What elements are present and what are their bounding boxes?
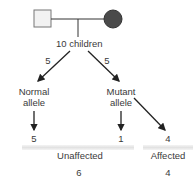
mother-circle-icon bbox=[104, 10, 122, 28]
mutant-affected-result: 4 bbox=[163, 133, 173, 144]
left-branch-count: 5 bbox=[43, 55, 53, 66]
normal-allele-label-1: Normal bbox=[18, 86, 50, 97]
normal-allele-label-2: allele bbox=[18, 97, 50, 108]
offspring-label: 10 children bbox=[56, 38, 102, 49]
right-branch-count: 5 bbox=[102, 55, 112, 66]
mutant-unaffected-result: 1 bbox=[116, 133, 126, 144]
affected-label: Affected bbox=[148, 150, 188, 161]
normal-result: 5 bbox=[29, 133, 39, 144]
unaffected-label: Unaffected bbox=[55, 150, 105, 161]
arrow-mutant-affected bbox=[134, 98, 165, 130]
unaffected-total: 6 bbox=[74, 167, 84, 178]
mutant-allele-label-2: allele bbox=[105, 97, 137, 108]
affected-total: 4 bbox=[163, 167, 173, 178]
father-square-icon bbox=[34, 10, 51, 27]
mutant-allele-label-1: Mutant bbox=[105, 86, 137, 97]
